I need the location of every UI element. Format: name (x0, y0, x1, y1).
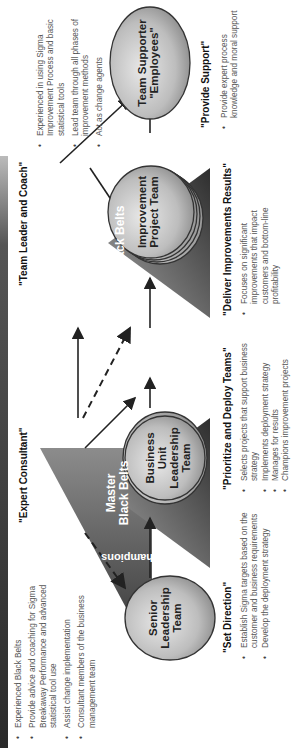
bullet: Develop the deployment strategy (261, 490, 271, 660)
team-supporter-line1: Team Supporter (136, 19, 148, 106)
set-direction-heading: "Set Direction" (222, 582, 233, 653)
provide-support-heading: "Provide Support" (200, 41, 211, 128)
prioritize-list: Selects projects that support business s… (240, 328, 291, 493)
team-supporter-label: Team Supporter "Employees" (136, 10, 160, 116)
provide-support-list: Provide expert process knowledge and mor… (220, 10, 245, 130)
team-leader-heading: "Team Leader and Coach" (18, 162, 29, 286)
bullet: Provide expert process knowledge and mor… (220, 10, 241, 130)
bullet: Champions improvement projects (281, 328, 291, 493)
bullet: Lead team through all phases of improvem… (71, 8, 92, 148)
bullet: Manages for results (271, 328, 281, 493)
bullet: Implements deployment strategy (261, 328, 271, 493)
deliver-list: Focuses on significant improvements that… (240, 181, 285, 316)
expert-consultant-heading: "Expert Consultant" (18, 427, 29, 523)
master-label-line1: Master (104, 474, 118, 513)
bullet: Assist change implementation (63, 565, 73, 740)
prioritize-heading: "Prioritize and Deploy Teams" (222, 347, 233, 490)
bullet: Act as change agents (95, 8, 105, 148)
bullet: Focuses on significant improvements that… (240, 181, 281, 316)
rotated-diagram-canvas: Champions Master Black Belts Black Belts… (0, 0, 299, 748)
master-label-line2: Black Belts (117, 461, 131, 526)
expert-consultant-list: Experienced Black Belts Provide advice a… (14, 565, 102, 740)
bullet: Establish Sigma targets based on the cus… (240, 490, 261, 660)
bullet: Selects projects that support business s… (240, 328, 261, 493)
senior-leadership-label: Senior Leadership Team (147, 582, 183, 654)
champions-label: Champions (101, 552, 161, 564)
black-belts-label: Black Belts (114, 198, 127, 278)
master-black-belts-label: Master Black Belts (105, 453, 131, 533)
set-direction-list: Establish Sigma targets based on the cus… (240, 490, 271, 660)
bullet: Experienced Black Belts (14, 565, 24, 740)
team-supporter-line2: "Employees" (148, 27, 160, 99)
bullet: Consultant members of the business manag… (77, 565, 98, 740)
bullet: Provide advice and coaching for Sigma Br… (28, 565, 59, 740)
deliver-heading: "Deliver Improvements Results" (222, 163, 233, 316)
bullet: Experienced in using Sigma Improvement P… (36, 8, 67, 148)
improvement-team-label: Improvement Project Team (136, 174, 160, 250)
business-unit-label: Business Unit Leadership Team (144, 420, 192, 496)
team-leader-list: Experienced in using Sigma Improvement P… (36, 8, 110, 148)
